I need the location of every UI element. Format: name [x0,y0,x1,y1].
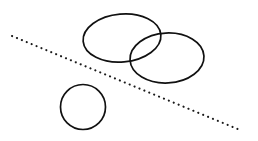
shapes-diagram [0,0,258,141]
canvas-background [0,0,258,141]
figure-canvas [0,0,258,141]
